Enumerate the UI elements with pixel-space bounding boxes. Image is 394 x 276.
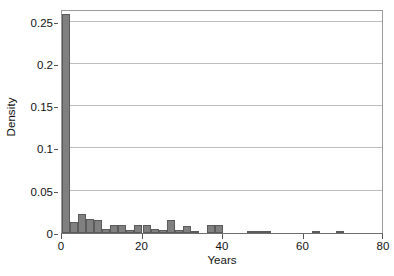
histogram-bar [134, 225, 142, 233]
y-tick-label: 0 [47, 228, 53, 240]
plot-area [61, 10, 383, 234]
y-tick-mark [54, 23, 58, 24]
histogram-bar [94, 220, 102, 233]
y-tick-mark [54, 192, 58, 193]
x-tick-mark [61, 234, 62, 239]
x-tick-label: 60 [296, 240, 309, 252]
histogram-bar [86, 219, 94, 233]
x-tick-label: 40 [216, 240, 229, 252]
y-tick-label: 0.05 [31, 186, 53, 198]
x-tick-mark [382, 234, 383, 239]
histogram-bars [62, 11, 382, 233]
histogram-bar [183, 226, 191, 233]
x-tick-label: 0 [58, 240, 64, 252]
y-tick-mark [54, 149, 58, 150]
histogram-bar [118, 225, 126, 233]
x-tick-label: 20 [135, 240, 148, 252]
histogram-bar [207, 225, 215, 233]
y-tick-mark [54, 107, 58, 108]
x-tick-mark [222, 234, 223, 239]
y-axis-title-text: Density [5, 97, 17, 136]
y-tick-label: 0.25 [31, 17, 53, 29]
histogram-bar [167, 220, 175, 233]
histogram-bar [70, 222, 78, 233]
x-tick-mark [303, 234, 304, 239]
histogram-bar [215, 225, 223, 233]
x-tick-label: 80 [377, 240, 390, 252]
y-tick-mark [54, 234, 58, 235]
x-tick-mark [142, 234, 143, 239]
y-tick-label: 0.15 [31, 101, 53, 113]
histogram-figure: Density 00.050.10.150.20.25 020406080 Ye… [0, 0, 394, 276]
y-tick-label: 0.2 [37, 59, 53, 71]
y-tick-label: 0.1 [37, 143, 53, 155]
histogram-bar [110, 225, 118, 233]
y-tick-mark [54, 65, 58, 66]
y-axis-ticks: 00.050.10.150.20.25 [18, 0, 58, 276]
histogram-bar [78, 214, 86, 233]
x-axis-title: Years [61, 254, 383, 266]
histogram-bar [62, 14, 70, 233]
histogram-bar [143, 225, 151, 233]
